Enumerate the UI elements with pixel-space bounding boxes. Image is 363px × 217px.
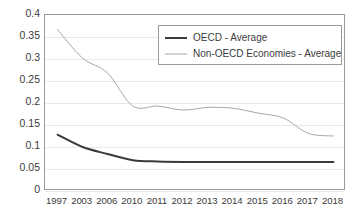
y-tick-label: 0.05 [0,162,40,173]
x-tick-label: 2016 [270,192,295,212]
x-tick-label: 2014 [220,192,245,212]
x-tick-label: 2006 [94,192,119,212]
y-tick-label: 0.4 [0,8,40,19]
legend-line-icon-non-oecd [165,49,187,59]
x-axis: 1997200320062010201120122013201420152016… [44,192,345,212]
y-axis: 00.050.10.150.20.250.30.350.4 [0,0,40,217]
y-tick-label: 0 [0,184,40,195]
y-tick-label: 0.3 [0,52,40,63]
line-chart: 00.050.10.150.20.250.30.350.4 1997200320… [0,0,363,217]
legend-item-non-oecd: Non-OECD Economies - Average [165,46,341,61]
x-tick-label: 2012 [169,192,194,212]
x-tick-label: 2010 [119,192,144,212]
series-line [58,135,334,162]
chart-legend: OECD - Average Non-OECD Economies - Aver… [158,25,342,65]
y-tick-label: 0.1 [0,140,40,151]
legend-line-icon-oecd [165,33,187,43]
y-tick-label: 0.35 [0,30,40,41]
x-tick-label: 2017 [295,192,320,212]
x-tick-label: 2003 [69,192,94,212]
legend-item-oecd: OECD - Average [165,30,341,45]
legend-label-oecd: OECD - Average [193,32,267,44]
x-tick-label: 2015 [245,192,270,212]
legend-label-non-oecd: Non-OECD Economies - Average [193,48,341,60]
x-tick-label: 2018 [320,192,345,212]
y-tick-label: 0.15 [0,118,40,129]
y-tick-label: 0.2 [0,96,40,107]
y-tick-label: 0.25 [0,74,40,85]
x-tick-label: 1997 [44,192,69,212]
x-tick-label: 2013 [194,192,219,212]
x-tick-label: 2011 [144,192,169,212]
